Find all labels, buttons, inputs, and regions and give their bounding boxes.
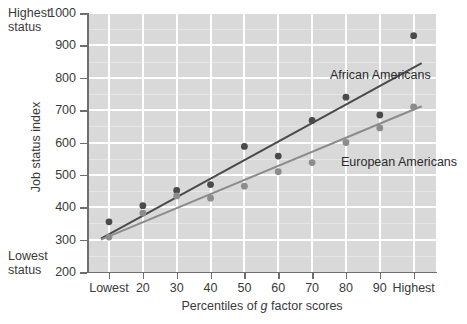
y-tick-1000 — [80, 13, 87, 15]
x-tick-label-30: 30 — [170, 281, 184, 295]
x-tick-label-60: 60 — [271, 281, 285, 295]
x-tick-highest — [414, 272, 416, 279]
data-point-s1-8 — [376, 125, 383, 132]
data-point-s0-5 — [275, 153, 282, 160]
y-tick-800 — [80, 78, 87, 80]
series-label-european-americans: European Americans — [341, 155, 457, 169]
x-tick-label-80: 80 — [339, 281, 353, 295]
x-tick-50 — [244, 272, 246, 279]
data-point-s0-0 — [106, 218, 113, 225]
y-tick-label-200: 200 — [30, 266, 76, 278]
x-axis-title-suffix: factor scores — [268, 299, 343, 313]
data-point-s1-2 — [173, 193, 180, 200]
y-tick-300 — [80, 240, 87, 242]
y-tick-400 — [80, 207, 87, 209]
data-point-s0-3 — [207, 181, 214, 188]
data-point-s1-1 — [139, 210, 146, 217]
y-tick-500 — [80, 175, 87, 177]
data-point-s1-5 — [275, 168, 282, 175]
x-tick-30 — [177, 272, 179, 279]
x-tick-90 — [380, 272, 382, 279]
y-tick-label-1000: 1000 — [30, 7, 76, 19]
data-point-s0-1 — [139, 202, 146, 209]
x-axis-title-italic-g: g — [261, 299, 268, 313]
data-point-s1-4 — [241, 183, 248, 190]
x-axis-title: Percentiles of g factor scores — [88, 299, 436, 313]
y-tick-label-300: 300 — [30, 234, 76, 246]
data-point-s0-4 — [241, 143, 248, 150]
data-layer — [88, 13, 436, 272]
x-tick-label-90: 90 — [373, 281, 387, 295]
y-tick-200 — [80, 272, 87, 274]
x-tick-label-highest: Highest — [392, 281, 434, 295]
data-point-s0-8 — [376, 112, 383, 119]
y-tick-700 — [80, 110, 87, 112]
data-points — [106, 32, 417, 240]
y-tick-600 — [80, 143, 87, 145]
x-tick-80 — [346, 272, 348, 279]
x-tick-lowest — [109, 272, 111, 279]
x-tick-70 — [312, 272, 314, 279]
data-point-s0-6 — [309, 117, 316, 124]
y-axis-title: Job status index — [29, 82, 43, 212]
x-tick-label-50: 50 — [237, 281, 251, 295]
y-tick-900 — [80, 45, 87, 47]
series-label-african-americans: African Americans — [330, 68, 431, 82]
data-point-s1-3 — [207, 195, 214, 202]
x-tick-20 — [143, 272, 145, 279]
data-point-s1-0 — [106, 234, 113, 241]
x-tick-60 — [278, 272, 280, 279]
trend-line-series-0 — [101, 63, 422, 238]
x-tick-40 — [211, 272, 213, 279]
regression-lines — [101, 63, 422, 239]
data-point-s1-9 — [410, 103, 417, 110]
x-tick-label-70: 70 — [305, 281, 319, 295]
x-tick-label-lowest: Lowest — [89, 281, 129, 295]
x-tick-label-20: 20 — [136, 281, 150, 295]
job-status-scatter-chart: Highest status Lowest status 20030040050… — [0, 0, 467, 324]
data-point-s0-7 — [343, 94, 350, 101]
x-tick-label-40: 40 — [204, 281, 218, 295]
data-point-s1-7 — [343, 139, 350, 146]
trend-line-series-1 — [101, 106, 422, 239]
y-tick-label-900: 900 — [30, 39, 76, 51]
data-point-s1-6 — [309, 159, 316, 166]
data-point-s0-9 — [410, 32, 417, 39]
x-axis-title-prefix: Percentiles of — [181, 299, 260, 313]
